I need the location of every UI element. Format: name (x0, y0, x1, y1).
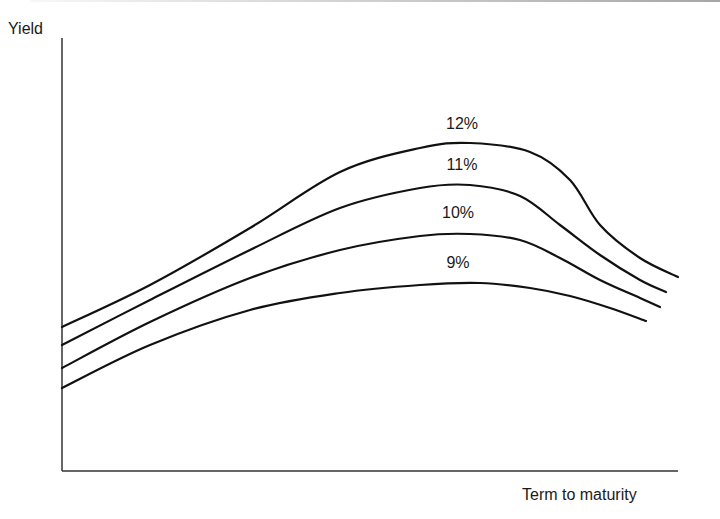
curve-10pct (62, 234, 660, 368)
y-axis-label: Yield (8, 20, 43, 38)
curve-label-9pct: 9% (446, 254, 469, 272)
curve-9pct (62, 283, 646, 388)
x-axis-label: Term to maturity (522, 486, 637, 504)
curve-label-11pct: 11% (447, 156, 478, 174)
curve-label-10pct: 10% (442, 204, 474, 222)
yield-curve-chart (0, 0, 720, 519)
curves-group (62, 143, 678, 388)
curve-label-12pct: 12% (446, 115, 478, 133)
